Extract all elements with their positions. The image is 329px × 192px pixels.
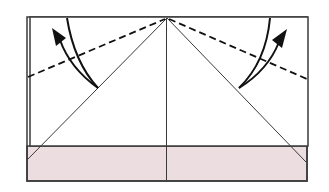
origami-diagram	[0, 0, 329, 192]
